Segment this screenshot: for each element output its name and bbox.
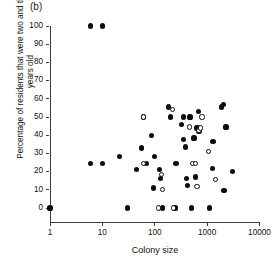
x-tick-mark: [154, 222, 155, 226]
x-tick-label: 1000: [187, 228, 227, 237]
x-tick-mark: [207, 222, 208, 226]
data-point-open: [170, 107, 175, 112]
data-point-open: [194, 184, 199, 189]
data-point-open: [193, 161, 198, 166]
data-point-open: [206, 149, 211, 154]
y-tick-label: 0: [19, 203, 43, 212]
x-tick-mark: [259, 222, 260, 226]
y-tick-label: 60: [19, 94, 43, 103]
y-tick-label: 10: [19, 185, 43, 194]
y-tick-mark: [46, 153, 49, 154]
scatter-plot-figure: (b) Percentage of residents that were tw…: [0, 0, 279, 260]
data-point-filled: [125, 205, 130, 210]
data-point-filled: [173, 161, 178, 166]
y-tick-mark: [46, 62, 49, 63]
x-tick-label: 100: [135, 228, 175, 237]
y-tick-label: 20: [19, 166, 43, 175]
x-tick-mark: [102, 222, 103, 226]
data-point-filled: [221, 188, 226, 193]
data-point-filled: [152, 154, 157, 159]
data-point-filled: [221, 102, 226, 107]
x-tick-label: 10: [82, 228, 122, 237]
x-tick-label: 1: [30, 228, 70, 237]
y-tick-mark: [46, 98, 49, 99]
y-tick-mark: [46, 189, 49, 190]
data-point-filled: [191, 135, 196, 140]
data-point-filled: [193, 174, 198, 179]
x-axis-title: Colony size: [50, 245, 260, 255]
data-point-filled: [151, 185, 156, 190]
x-tick-mark: [50, 222, 51, 226]
data-point-filled: [185, 183, 190, 188]
y-tick-mark: [46, 135, 49, 136]
data-point-filled: [189, 205, 194, 210]
y-tick-mark: [46, 80, 49, 81]
data-point-filled: [223, 124, 228, 129]
y-tick-label: 40: [19, 130, 43, 139]
data-point-filled: [168, 114, 173, 119]
data-point-filled: [139, 145, 144, 150]
y-tick-mark: [46, 171, 49, 172]
data-point-open: [141, 161, 146, 166]
data-point-open: [159, 172, 164, 177]
data-point-filled: [100, 23, 105, 28]
data-point-open: [171, 205, 176, 210]
data-point-filled: [117, 154, 122, 159]
y-tick-label: 80: [19, 57, 43, 66]
data-point-filled: [88, 23, 93, 28]
x-tick-label: 10000: [240, 228, 280, 237]
data-point-filled: [210, 139, 215, 144]
y-tick-label: 90: [19, 39, 43, 48]
y-tick-label: 100: [19, 21, 43, 30]
y-tick-label: 70: [19, 75, 43, 84]
y-tick-mark: [46, 44, 49, 45]
data-point-filled: [187, 114, 192, 119]
data-point-filled: [230, 169, 235, 174]
y-tick-mark: [46, 117, 49, 118]
y-tick-label: 30: [19, 148, 43, 157]
data-point-filled: [47, 205, 52, 210]
data-point-filled: [183, 144, 188, 149]
data-point-filled: [207, 205, 212, 210]
y-tick-label: 50: [19, 112, 43, 121]
data-point-open: [199, 114, 204, 119]
data-point-open: [187, 124, 192, 129]
data-point-filled: [100, 161, 105, 166]
y-tick-mark: [46, 26, 49, 27]
data-point-filled: [196, 109, 201, 114]
